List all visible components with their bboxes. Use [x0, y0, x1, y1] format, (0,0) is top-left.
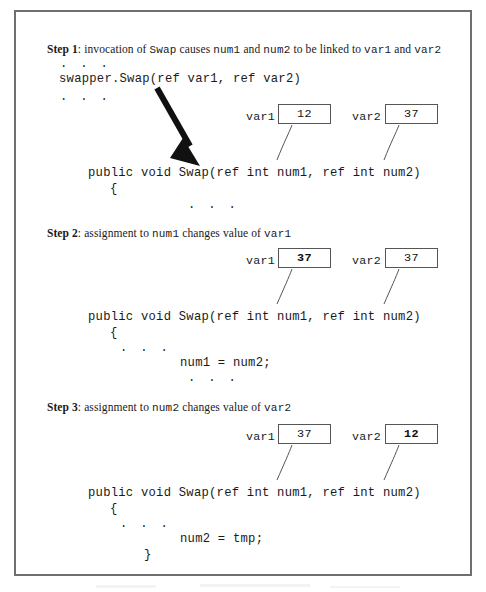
step-3-label: Step 3 — [47, 401, 78, 413]
step-3-var2-value: 12 — [386, 425, 437, 444]
step-2-var2-value: 37 — [386, 249, 437, 268]
step-3-signature: public void Swap(ref int num1, ref int n… — [88, 486, 421, 501]
step-2-heading: Step 2: assignment to num1 changes value… — [35, 214, 291, 254]
step-3-part-2: changes value of — [179, 401, 264, 413]
step-2-label: Step 2 — [47, 227, 78, 239]
step-1-part-5: num2 — [263, 44, 290, 56]
step-1-ellipsis-bottom: . . . — [60, 90, 111, 104]
step-3-part-0: assignment to — [84, 401, 152, 413]
step-1-var1-label: var1 — [246, 110, 275, 123]
step-2-var2-label: var2 — [352, 254, 381, 267]
step-1-body-ellipsis: . . . — [188, 198, 239, 212]
step-3-open-brace: { — [110, 502, 118, 517]
step-1-open-brace: { — [110, 182, 118, 197]
step-2-var1-box: 37 — [278, 248, 331, 268]
step-2-signature: public void Swap(ref int num1, ref int n… — [88, 310, 421, 325]
step-2-part-1: num1 — [152, 228, 179, 240]
step-3-part-3: var2 — [264, 402, 291, 414]
step-3-part-1: num2 — [152, 402, 179, 414]
step-1-part-4: and — [240, 43, 263, 55]
step-1-var1-value: 12 — [279, 105, 330, 124]
scan-artifact — [200, 584, 310, 587]
step-1-part-3: num1 — [213, 44, 240, 56]
step-3-close-brace: } — [144, 548, 152, 563]
step-2-statement: num1 = num2; — [180, 356, 271, 371]
step-2-ellipsis-top: . . . — [120, 341, 171, 355]
step-2-part-2: changes value of — [179, 227, 264, 239]
step-1-call-line: swapper.Swap(ref var1, ref var2) — [59, 72, 301, 87]
figure-page: Step 1: invocation of Swap causes num1 a… — [0, 0, 486, 592]
step-1-part-9: var2 — [414, 44, 441, 56]
step-3-statement: num2 = tmp; — [180, 532, 263, 547]
step-1-part-6: to be linked to — [291, 43, 365, 55]
step-1-part-0: invocation of — [84, 43, 149, 55]
step-1-part-2: causes — [177, 43, 214, 55]
step-2-var2-box: 37 — [385, 248, 438, 268]
step-1-part-8: and — [391, 43, 414, 55]
step-2-ellipsis-bottom: . . . — [188, 371, 239, 385]
step-1-signature: public void Swap(ref int num1, ref int n… — [88, 166, 421, 181]
step-1-part-1: Swap — [149, 44, 176, 56]
scan-artifact — [330, 586, 400, 588]
step-1-var2-value: 37 — [386, 105, 437, 124]
step-3-heading: Step 3: assignment to num2 changes value… — [35, 388, 291, 428]
step-2-open-brace: { — [110, 326, 118, 341]
step-1-part-7: var1 — [364, 44, 391, 56]
step-1-ellipsis-top: . . . — [60, 57, 111, 71]
step-2-var1-label: var1 — [246, 254, 275, 267]
step-3-var1-label: var1 — [246, 430, 275, 443]
step-3-var1-value: 37 — [279, 425, 330, 444]
step-3-var2-box: 12 — [385, 424, 438, 444]
step-3-var2-label: var2 — [352, 430, 381, 443]
step-1-var2-label: var2 — [352, 110, 381, 123]
step-3-var1-box: 37 — [278, 424, 331, 444]
step-1-var2-box: 37 — [385, 104, 438, 124]
step-2-part-0: assignment to — [84, 227, 152, 239]
step-1-label: Step 1 — [47, 43, 78, 55]
step-3-ellipsis-top: . . . — [120, 517, 171, 531]
step-2-part-3: var1 — [264, 228, 291, 240]
scan-artifact — [96, 585, 156, 588]
step-2-var1-value: 37 — [279, 249, 330, 268]
step-1-var1-box: 12 — [278, 104, 331, 124]
